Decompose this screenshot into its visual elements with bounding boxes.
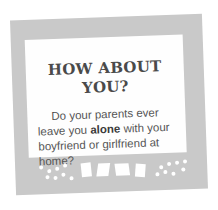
dot-icon <box>171 172 175 176</box>
dot-icon <box>183 159 187 163</box>
square-shape <box>114 163 130 175</box>
dot-icon <box>163 170 167 174</box>
square-shape <box>81 162 92 177</box>
dot-icon <box>181 167 185 171</box>
dot-icon <box>61 173 65 177</box>
dot-icon <box>175 161 179 165</box>
heading-line-1: HOW ABOUT <box>47 57 161 79</box>
square-shape <box>96 163 110 176</box>
bold-word: alone <box>90 123 120 136</box>
dot-icon <box>55 167 59 171</box>
dot-icon <box>47 169 51 173</box>
dot-icon <box>69 176 73 180</box>
square-shape <box>135 164 146 178</box>
dot-icon <box>53 176 57 180</box>
heading-line-2: YOU? <box>82 77 129 97</box>
dot-icon <box>155 172 159 176</box>
question-panel: HOW ABOUT YOU? Do your parents ever leav… <box>25 34 187 157</box>
dot-icon <box>63 164 67 168</box>
gray-frame: HOW ABOUT YOU? Do your parents ever leav… <box>10 14 208 196</box>
dot-icon <box>45 175 49 179</box>
dot-icon <box>167 162 171 166</box>
heading: HOW ABOUT YOU? <box>25 56 184 99</box>
decorative-shapes <box>15 156 208 191</box>
dot-icon <box>39 165 43 169</box>
dot-icon <box>159 165 163 169</box>
